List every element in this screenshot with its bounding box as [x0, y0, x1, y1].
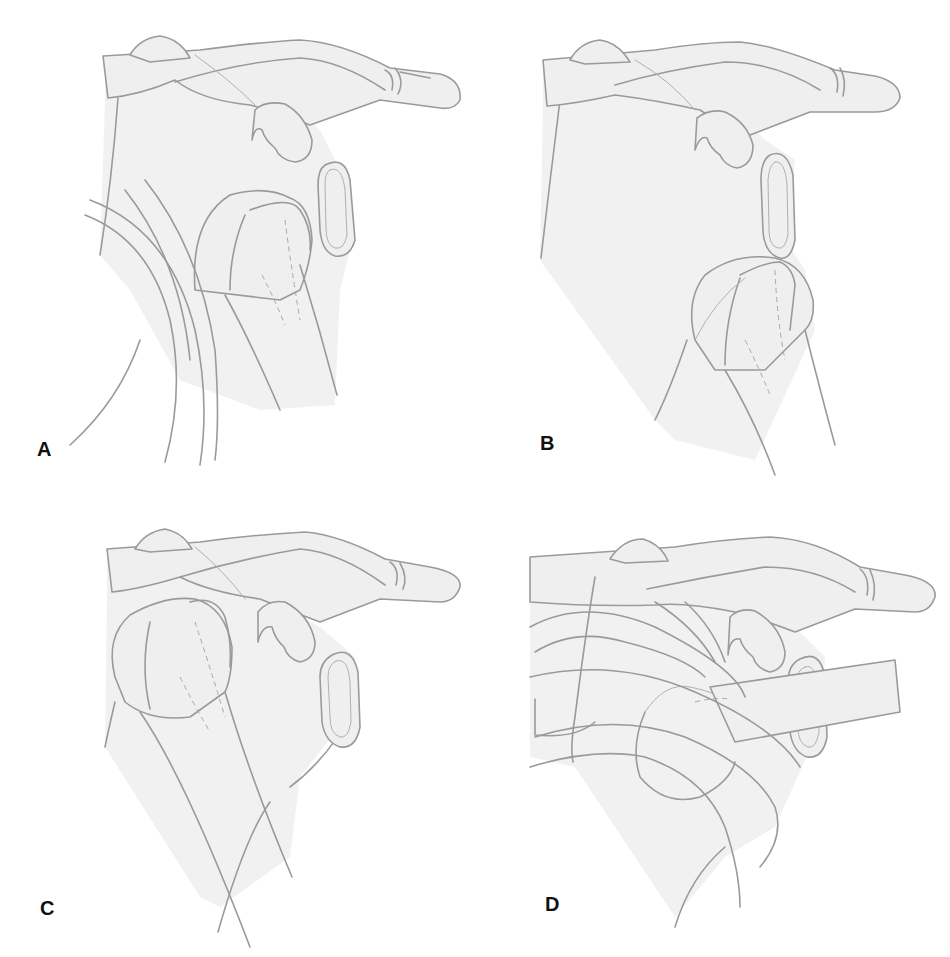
panel-label-a: A	[37, 438, 51, 461]
panel-d: D	[475, 477, 950, 955]
rib-5	[70, 340, 140, 445]
acromion-process	[130, 36, 190, 62]
panel-a: A	[0, 0, 475, 478]
panel-a-drawing	[0, 0, 475, 478]
panel-label-d: D	[545, 893, 559, 916]
glenoid	[320, 652, 360, 747]
panel-c-drawing	[0, 477, 475, 955]
acromion-process	[610, 539, 668, 563]
acromion-process	[570, 40, 630, 64]
panel-b: B	[475, 0, 950, 478]
panel-c: C	[0, 477, 475, 955]
acromion-process	[135, 529, 192, 552]
panel-label-b: B	[540, 432, 554, 455]
humeral-head	[112, 598, 232, 718]
panel-d-drawing	[475, 477, 950, 955]
panel-b-drawing	[475, 0, 950, 478]
glenoid	[761, 154, 795, 259]
glenoid	[318, 162, 355, 256]
panel-label-c: C	[40, 897, 54, 920]
